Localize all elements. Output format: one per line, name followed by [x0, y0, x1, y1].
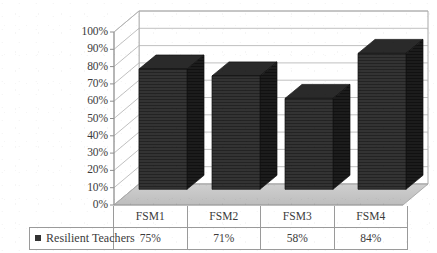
series-color-swatch-icon — [35, 235, 41, 241]
table-header-fsm3: FSM3 — [261, 206, 335, 228]
table-header-fsm2: FSM2 — [187, 206, 261, 228]
y-tick-60: 60% — [62, 95, 108, 107]
y-axis-tick-labels: 100% 90% 80% 70% 60% 50% 40% 30% 20% 10%… — [60, 0, 108, 212]
bar-fsm4 — [358, 39, 423, 189]
y-tick-20: 20% — [62, 164, 108, 176]
table-value-fsm2: 71% — [187, 228, 261, 250]
y-tick-40: 40% — [62, 130, 108, 142]
table-header-row: FSM1 FSM2 FSM3 FSM4 — [30, 206, 408, 228]
y-tick-100: 100% — [62, 26, 108, 38]
y-tick-70: 70% — [62, 78, 108, 90]
table-value-fsm3: 58% — [261, 228, 335, 250]
table-corner-cell — [30, 206, 114, 228]
chart-plot-area: 100% 90% 80% 70% 60% 50% 40% 30% 20% 10%… — [0, 0, 437, 212]
table-row: Resilient Teachers 75% 71% 58% 84% — [30, 228, 408, 250]
y-tick-30: 30% — [62, 147, 108, 159]
bar-fsm1 — [139, 55, 204, 189]
table-header-fsm1: FSM1 — [114, 206, 188, 228]
data-table: FSM1 FSM2 FSM3 FSM4 Resilient Teachers 7… — [29, 206, 408, 250]
y-tick-90: 90% — [62, 43, 108, 55]
y-tick-50: 50% — [62, 113, 108, 125]
y-tick-80: 80% — [62, 61, 108, 73]
y-tick-10: 10% — [62, 182, 108, 194]
table-header-fsm4: FSM4 — [334, 206, 408, 228]
y-axis-ticks — [110, 32, 114, 205]
legend-entry: Resilient Teachers — [30, 228, 114, 250]
legend-label: Resilient Teachers — [46, 232, 135, 245]
bar-chart-figure: 100% 90% 80% 70% 60% 50% 40% 30% 20% 10%… — [0, 0, 437, 253]
bar-fsm2 — [212, 62, 277, 189]
table-value-fsm4: 84% — [334, 228, 408, 250]
bar-fsm3 — [285, 84, 350, 189]
